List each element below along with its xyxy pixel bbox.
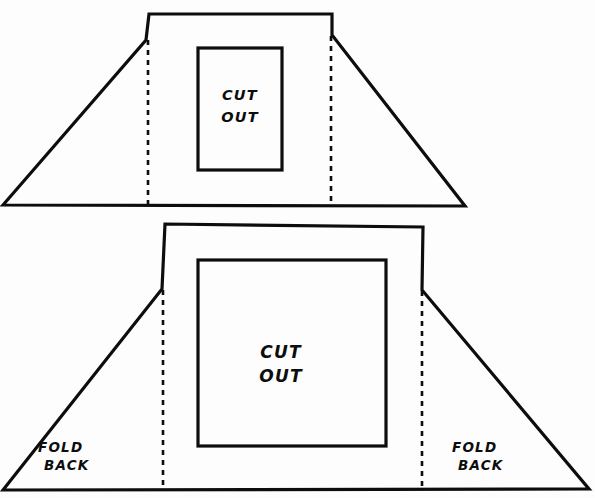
upper-cut-out-label-line1: CUT xyxy=(222,87,258,103)
upper-template-piece: CUT OUT xyxy=(3,14,465,206)
lower-template-piece: CUT OUT FOLD BACK FOLD BACK xyxy=(3,224,589,490)
fold-back-label-left-line1: FOLD xyxy=(38,439,83,455)
diagram-canvas: CUT OUT CUT OUT FOLD BACK FOLD BACK xyxy=(0,0,595,498)
lower-cut-out-label-line1: CUT xyxy=(260,342,302,362)
fold-back-label-left-line2: BACK xyxy=(44,457,90,473)
fold-back-label-right-line1: FOLD xyxy=(452,439,497,455)
template-drawing: CUT OUT CUT OUT FOLD BACK FOLD BACK xyxy=(0,0,595,498)
fold-back-label-right-line2: BACK xyxy=(458,457,504,473)
lower-cut-out-label-line2: OUT xyxy=(259,366,303,386)
upper-cut-out-label-line2: OUT xyxy=(221,109,259,125)
